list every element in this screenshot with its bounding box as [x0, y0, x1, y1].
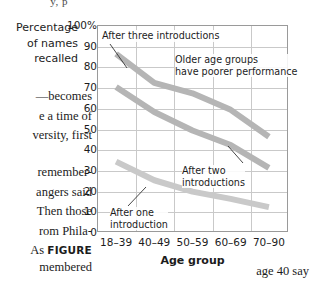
annotation-after-two: After two introductions — [182, 165, 245, 188]
x-axis-title: Age group — [97, 254, 288, 267]
annotation-leader-line — [128, 187, 146, 206]
annotation-after-one: After one introduction — [110, 207, 168, 230]
data-line — [116, 87, 269, 168]
annotation-older-age-groups: Older age groups have poorer performance — [175, 54, 298, 77]
annotation-leader-line — [110, 44, 127, 68]
annotation-after-three: After three introductions — [102, 30, 219, 42]
